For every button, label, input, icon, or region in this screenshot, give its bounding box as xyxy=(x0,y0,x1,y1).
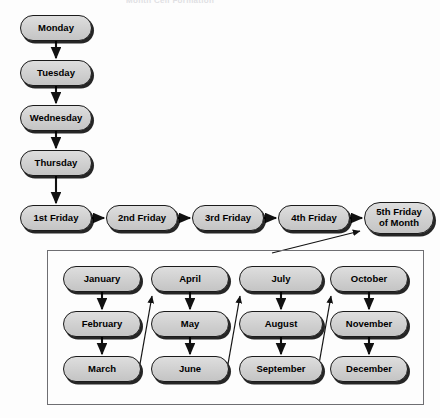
page-header-fragment: Month Cell Formation xyxy=(126,0,386,6)
node-may[interactable]: May xyxy=(151,311,229,337)
node-march[interactable]: March xyxy=(63,356,141,382)
node-4th-friday[interactable]: 4th Friday xyxy=(278,205,350,231)
node-1st-friday[interactable]: 1st Friday xyxy=(20,205,92,231)
node-january[interactable]: January xyxy=(63,266,141,292)
node-tuesday[interactable]: Tuesday xyxy=(20,60,92,86)
node-label: 2nd Friday xyxy=(114,213,170,224)
node-wednesday[interactable]: Wednesday xyxy=(20,105,92,131)
node-label: April xyxy=(175,274,205,285)
node-label-line2: of Month xyxy=(375,218,423,229)
node-label: Tuesday xyxy=(33,68,79,79)
node-monday[interactable]: Monday xyxy=(20,15,92,41)
node-november[interactable]: November xyxy=(330,311,408,337)
node-august[interactable]: August xyxy=(239,311,323,337)
node-label: March xyxy=(84,364,120,375)
node-september[interactable]: September xyxy=(239,356,323,382)
node-april[interactable]: April xyxy=(151,266,229,292)
node-label: December xyxy=(342,364,396,375)
node-label: July xyxy=(267,274,294,285)
node-label: August xyxy=(261,319,302,330)
node-thursday[interactable]: Thursday xyxy=(20,150,92,176)
node-june[interactable]: June xyxy=(151,356,229,382)
diagram-canvas: Month Cell Formation xyxy=(0,0,440,418)
node-label: November xyxy=(342,319,396,330)
node-2nd-friday[interactable]: 2nd Friday xyxy=(106,205,178,231)
node-5th-friday-of-month[interactable]: 5th Friday of Month xyxy=(364,202,434,234)
node-february[interactable]: February xyxy=(63,311,141,337)
node-label: January xyxy=(80,274,124,285)
node-july[interactable]: July xyxy=(239,266,323,292)
node-label: February xyxy=(78,319,127,330)
node-label: June xyxy=(175,364,205,375)
node-label: May xyxy=(177,319,203,330)
node-label: Wednesday xyxy=(26,113,87,124)
node-december[interactable]: December xyxy=(330,356,408,382)
node-label: 1st Friday xyxy=(30,213,83,224)
node-label: 3rd Friday xyxy=(201,213,255,224)
node-3rd-friday[interactable]: 3rd Friday xyxy=(192,205,264,231)
node-october[interactable]: October xyxy=(330,266,408,292)
node-label: Thursday xyxy=(31,158,82,169)
node-label: Monday xyxy=(34,23,78,34)
node-label: September xyxy=(252,364,309,375)
node-label: October xyxy=(347,274,391,285)
node-label: 4th Friday xyxy=(287,213,340,224)
